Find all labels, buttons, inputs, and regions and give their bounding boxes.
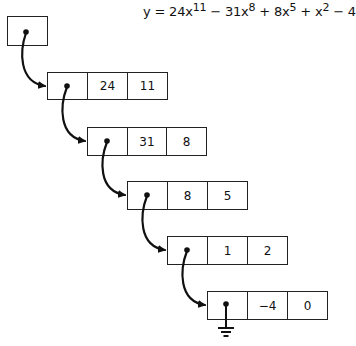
arrow-node4-to-node5 <box>182 251 205 305</box>
pointer-dot-node2 <box>104 138 110 144</box>
arrow-node1-to-node2 <box>62 87 85 141</box>
arrow-node2-to-node3 <box>102 142 125 195</box>
ground-null-icon <box>218 304 234 336</box>
term-5: 4 <box>348 4 356 19</box>
arrow-node3-to-node4 <box>142 196 165 250</box>
pointer-dot-node1 <box>64 83 70 89</box>
arrow-head-to-node1 <box>22 33 45 86</box>
pointer-dot-node3 <box>144 192 150 198</box>
pointer-dot-node4 <box>184 247 190 253</box>
pointer-dot-head <box>23 29 29 35</box>
